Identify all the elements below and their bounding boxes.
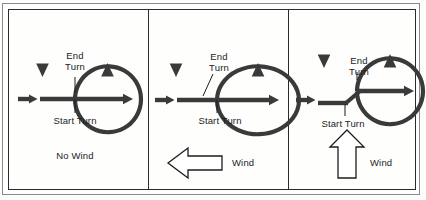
wind-label-3: Wind — [370, 157, 392, 168]
wind-arrow-left — [168, 148, 222, 178]
start-turn-label-1: Start Turn — [53, 115, 96, 126]
flight-path-head-3 — [404, 86, 414, 96]
end-turn-leader-2 — [203, 74, 213, 96]
diagram-vector-layer — [0, 0, 426, 200]
turn-arrowhead-left-2 — [170, 64, 183, 78]
wind-arrow-up — [330, 130, 364, 178]
turn-circle-gap-left-3 — [324, 80, 326, 91]
no-wind-label: No Wind — [56, 150, 93, 161]
start-turn-label-2: Start Turn — [198, 115, 241, 126]
turn-diagram-figure: End Turn Start Turn No Wind End Turn Sta… — [0, 0, 426, 200]
turn-arrowhead-left-1 — [36, 64, 49, 78]
wind-label-2: Wind — [232, 157, 254, 168]
end-turn-label-2: End Turn — [209, 51, 229, 73]
flight-path-head-2 — [269, 95, 279, 105]
end-turn-label-1: End Turn — [65, 50, 85, 72]
inbound-arrow-head-1 — [29, 95, 38, 104]
flight-path-head-1 — [123, 94, 133, 104]
inbound-arrow-head-3 — [307, 96, 316, 105]
end-turn-label-3: End Turn — [349, 55, 369, 77]
turn-arrowhead-right-3 — [384, 54, 397, 68]
turn-arrowhead-left-3 — [318, 55, 331, 69]
start-turn-label-3: Start Turn — [321, 118, 364, 129]
